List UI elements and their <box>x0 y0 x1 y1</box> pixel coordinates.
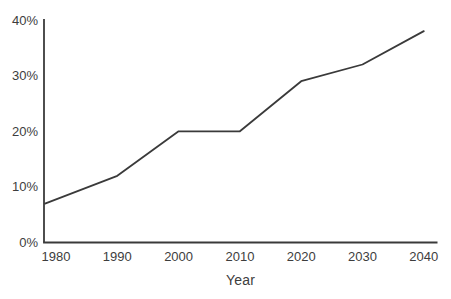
chart-canvas: 19801990200020102020203020400%10%20%30%4… <box>0 0 451 299</box>
x-tick-label: 2000 <box>164 249 193 264</box>
x-tick-label: 2010 <box>225 249 254 264</box>
x-tick-label: 2020 <box>287 249 316 264</box>
y-tick-label: 20% <box>12 124 38 139</box>
x-tick-label: 2030 <box>348 249 377 264</box>
line-chart: 19801990200020102020203020400%10%20%30%4… <box>0 0 451 299</box>
x-axis-title: Year <box>44 272 437 288</box>
x-tick-label: 2040 <box>409 249 438 264</box>
x-tick-label: 1990 <box>103 249 132 264</box>
y-tick-label: 30% <box>12 68 38 83</box>
data-line <box>45 31 424 204</box>
y-tick-label: 10% <box>12 179 38 194</box>
x-tick-label: 1980 <box>42 249 71 264</box>
y-tick-label: 40% <box>12 13 38 28</box>
y-tick-label: 0% <box>19 235 38 250</box>
